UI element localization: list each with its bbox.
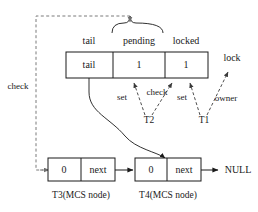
field-header-pending: pending xyxy=(123,36,155,46)
field-value-locked: 1 xyxy=(184,60,189,70)
check-locked-label: check xyxy=(147,88,168,97)
t2-set-arrow xyxy=(134,83,145,115)
t3-cell-next-value: next xyxy=(89,165,106,175)
set-locked-label: set xyxy=(177,93,187,102)
t4-cell-next-value: next xyxy=(175,165,192,175)
t1-set-arrow xyxy=(190,83,200,115)
owner-label: owner xyxy=(215,94,238,103)
t3-cell-locked-value: 0 xyxy=(62,165,67,175)
diagram-graphics xyxy=(0,0,258,212)
field-value-tail: tail xyxy=(83,60,96,70)
thread-label-t2: T2 xyxy=(144,116,155,126)
mcs-node-t4-caption: T4(MCS node) xyxy=(139,191,197,201)
brace-pending-locked xyxy=(112,16,163,33)
lock-label: lock xyxy=(223,53,240,63)
mcs-node-t3-caption: T3(MCS node) xyxy=(52,191,110,201)
diagram-canvas: tail pending locked tail 1 1 lock check … xyxy=(0,0,258,212)
field-value-pending: 1 xyxy=(137,60,142,70)
check-left-label: check xyxy=(8,82,29,91)
field-header-locked: locked xyxy=(173,36,200,46)
thread-label-t1: T1 xyxy=(199,116,210,126)
t4-cell-locked-value: 0 xyxy=(149,165,154,175)
set-pending-label: set xyxy=(117,93,127,102)
null-terminator-label: NULL xyxy=(225,165,252,175)
field-header-tail: tail xyxy=(83,36,96,46)
